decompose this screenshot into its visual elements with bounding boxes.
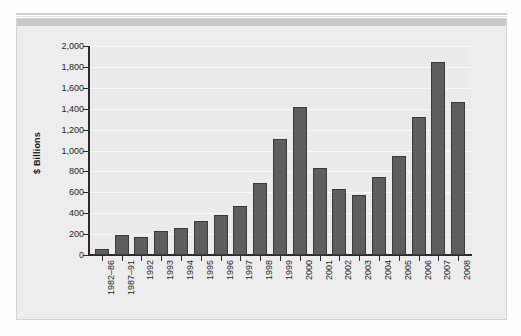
y-axis-tick-label: 2,000 <box>44 41 84 51</box>
y-axis-tick-label: 400 <box>44 208 84 218</box>
bar <box>194 221 208 255</box>
y-axis-tick-label: 0 <box>44 250 84 260</box>
bar <box>253 183 267 255</box>
bar-series <box>88 46 471 255</box>
bar <box>431 62 445 255</box>
bar <box>412 117 426 255</box>
x-axis-tick-label: 2005 <box>403 260 413 320</box>
bar <box>95 249 109 255</box>
x-axis-tick-label: 2000 <box>304 260 314 320</box>
page-top-rule-primary <box>16 13 507 15</box>
y-axis-tick-label: 1,200 <box>44 125 84 135</box>
x-axis-tick-labels: 1982–861987–9119921993199419951996199719… <box>88 260 471 320</box>
bar <box>134 237 148 255</box>
y-axis-tick-label: 1,800 <box>44 62 84 72</box>
x-axis-tick-label: 1992 <box>145 260 155 320</box>
x-axis-tick-label: 1999 <box>284 260 294 320</box>
x-axis-tick-label: 2004 <box>383 260 393 320</box>
x-axis-tick-label: 2008 <box>462 260 472 320</box>
chart-screenshot: $ Billions 02004006008001,0001,2001,4001… <box>0 0 521 336</box>
page-top-rule-secondary <box>16 16 507 17</box>
x-axis-tick-label: 2007 <box>442 260 452 320</box>
y-axis-tick-label: 1,400 <box>44 104 84 114</box>
x-axis-tick-label: 1998 <box>264 260 274 320</box>
x-axis-tick-label: 2006 <box>423 260 433 320</box>
x-axis-tick-label: 1994 <box>185 260 195 320</box>
x-axis-tick-label: 1993 <box>165 260 175 320</box>
bar <box>451 102 465 255</box>
bar <box>214 215 228 255</box>
x-axis-tick-label: 2002 <box>343 260 353 320</box>
bar <box>372 177 386 255</box>
y-axis-tick-label: 200 <box>44 229 84 239</box>
bar <box>273 139 287 255</box>
bar <box>352 195 366 255</box>
x-axis-tick-label: 1982–86 <box>106 260 116 320</box>
bar <box>154 231 168 255</box>
bar <box>115 235 129 255</box>
x-axis-tick-label: 1997 <box>244 260 254 320</box>
x-axis-tick-label: 2001 <box>324 260 334 320</box>
x-axis-tick-label: 1987–91 <box>126 260 136 320</box>
y-axis-tick-label: 1,600 <box>44 83 84 93</box>
chart-card-top-band <box>17 19 506 26</box>
bar <box>332 189 346 255</box>
bar <box>313 168 327 255</box>
x-axis-tick-label: 2003 <box>363 260 373 320</box>
y-axis-tick-label: 1,000 <box>44 146 84 156</box>
x-axis-tick-label: 1996 <box>225 260 235 320</box>
x-axis-tick-label: 1995 <box>205 260 215 320</box>
y-axis-tick-mark <box>83 255 89 256</box>
y-axis-title-text: $ Billions <box>32 132 42 174</box>
bar <box>233 206 247 255</box>
y-axis-tick-label: 800 <box>44 166 84 176</box>
y-axis-tick-label: 600 <box>44 187 84 197</box>
bar <box>174 228 188 255</box>
bar <box>392 156 406 255</box>
bar <box>293 107 307 255</box>
y-axis-tick-labels: 02004006008001,0001,2001,4001,6001,8002,… <box>44 42 84 261</box>
